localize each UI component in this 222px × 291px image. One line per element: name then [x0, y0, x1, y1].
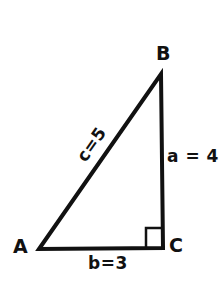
vertex-label-b: B — [156, 44, 170, 63]
side-length-label-a: a = 4 — [167, 148, 219, 165]
right-triangle-figure: B A C a = 4 b=3 c=5 — [0, 0, 222, 291]
side-length-label-b: b=3 — [88, 255, 128, 272]
triangle-shape — [39, 74, 163, 249]
vertex-label-c: C — [169, 236, 183, 255]
vertex-label-a: A — [13, 237, 28, 256]
